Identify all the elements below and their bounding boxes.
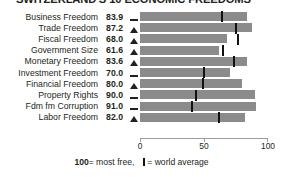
trend-flat-icon [128,67,139,78]
trend-up-icon [128,56,139,67]
freedom-row: Monetary Freedom83.6 [0,56,283,67]
trend-flat-icon [128,90,139,101]
world-average-marker [237,34,239,45]
freedom-row-value: 83.6 [101,56,123,67]
freedom-rows-list: Business Freedom83.9Trade Freedom87.2Fis… [0,12,283,124]
freedom-row-value: 80.0 [101,79,123,90]
triangle-up-icon [130,60,138,66]
freedom-row-label: Investment Freedom [18,68,98,79]
dash-icon [130,108,138,110]
freedom-row-label: Labor Freedom [39,112,98,123]
trend-up-icon [128,23,139,34]
axis-tick-label: 100 [261,141,275,152]
dash-icon [130,75,138,77]
trend-up-icon [128,45,139,56]
freedom-row-label: Monetary Freedom [25,56,98,67]
score-bar [140,68,230,77]
freedom-row-label: Fdm fm Corruption [26,101,98,112]
freedom-row-value: 61.6 [101,45,123,56]
axis-tick-label: 0 [138,141,143,152]
freedom-row-value: 68.0 [101,34,123,45]
freedom-row: Fiscal Freedom68.0 [0,34,283,45]
world-average-marker [235,23,237,34]
score-bar [140,79,242,88]
world-average-marker [222,45,224,56]
trend-up-icon [128,112,139,123]
trend-up-icon [128,34,139,45]
freedom-row-value: 87.2 [101,23,123,34]
score-bar [140,113,245,122]
trend-up-icon [128,79,139,90]
score-bar [140,90,255,99]
freedom-row-value: 70.0 [101,68,123,79]
world-average-legend-text: = world average [147,157,208,167]
trend-flat-icon [128,101,139,112]
freedom-row-label: Government Size [31,45,98,56]
freedom-row: Fdm fm Corruption91.0 [0,101,283,112]
freedom-row: Property Rights90.0 [0,90,283,101]
triangle-up-icon [130,38,138,44]
freedom-row-value: 90.0 [101,90,123,101]
freedom-row: Business Freedom83.9 [0,12,283,23]
freedom-row-value: 91.0 [101,101,123,112]
score-bar [140,102,256,111]
chart-legend-footer: 100 = most free, = world average [0,155,283,169]
freedom-row-value: 83.9 [101,12,123,23]
most-free-number: 100 [74,157,88,167]
chart-title: SWITZERLAND'S 10 ECONOMIC FREEDOMS [16,0,251,5]
triangle-up-icon [130,83,138,89]
dash-icon [130,19,138,21]
freedom-row-label: Trade Freedom [38,23,98,34]
triangle-up-icon [130,116,138,122]
score-bar [140,34,227,43]
freedom-row-label: Property Rights [38,90,98,101]
world-average-marker [202,78,204,89]
freedom-row-plot [140,112,268,123]
most-free-text: = most free, [89,157,135,167]
freedom-row: Financial Freedom80.0 [0,79,283,90]
freedom-row: Government Size61.6 [0,45,283,56]
world-average-tick-icon [143,158,145,167]
freedom-row-plot [140,67,268,78]
freedom-row-value: 82.0 [101,112,123,123]
freedom-row-label: Fiscal Freedom [38,34,98,45]
score-bar [140,12,247,21]
freedom-row-plot [140,34,268,45]
world-average-marker [191,101,193,112]
freedom-row-label: Financial Freedom [26,79,98,90]
axis-tick-label: 50 [199,141,208,152]
freedom-row-plot [140,90,268,101]
score-bar [140,57,247,66]
triangle-up-icon [130,49,138,55]
triangle-up-icon [130,27,138,33]
freedom-row-plot [140,23,268,34]
freedom-row-plot [140,101,268,112]
freedom-row-plot [140,56,268,67]
world-average-marker [221,11,223,22]
trend-flat-icon [128,12,139,23]
freedom-row-plot [140,45,268,56]
freedom-row: Labor Freedom82.0 [0,112,283,123]
freedom-row-plot [140,79,268,90]
world-average-marker [233,56,235,67]
freedom-row: Trade Freedom87.2 [0,23,283,34]
freedom-row-plot [140,12,268,23]
world-average-marker [195,90,197,101]
freedom-row: Investment Freedom70.0 [0,67,283,78]
dash-icon [130,97,138,99]
economic-freedoms-chart: SWITZERLAND'S 10 ECONOMIC FREEDOMS Busin… [0,0,283,177]
freedom-row-label: Business Freedom [26,12,98,23]
x-axis-tick-labels: 050100 [0,141,283,153]
score-bar [140,46,219,55]
world-average-marker [218,112,220,123]
world-average-marker [203,67,205,78]
